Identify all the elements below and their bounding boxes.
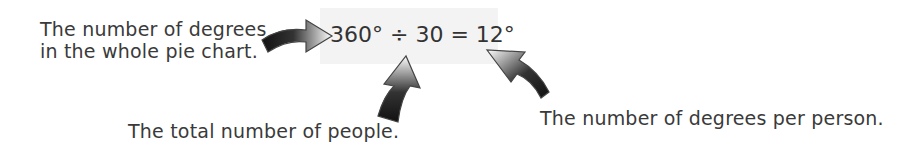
degrees-per-person-label: The number of degrees per person. xyxy=(540,107,884,129)
whole-pie-label-line1: The number of degrees xyxy=(40,18,267,40)
equation: 360° ÷ 30 = 12° xyxy=(330,22,515,48)
arrow-right-icon xyxy=(258,18,338,58)
total-people-label: The total number of people. xyxy=(128,120,399,142)
arrow-up-left-icon xyxy=(485,48,551,104)
arrow-up-icon xyxy=(372,52,432,124)
whole-pie-label-line2: in the whole pie chart. xyxy=(40,40,267,62)
whole-pie-label: The number of degrees in the whole pie c… xyxy=(40,18,267,62)
